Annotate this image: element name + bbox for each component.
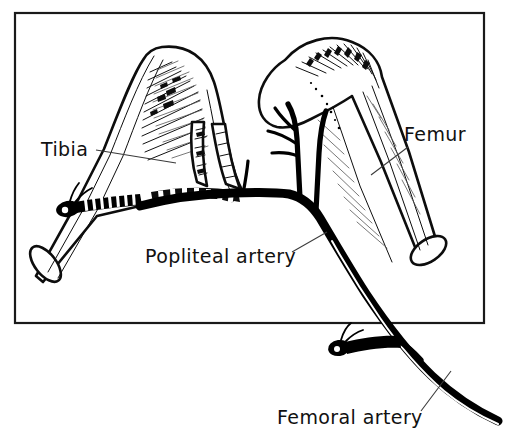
label-tibia: Tibia	[40, 138, 88, 160]
label-femoral-artery: Femoral artery	[277, 406, 423, 428]
illustration-canvas: Tibia Femur Popliteal artery Femoral art…	[0, 0, 524, 438]
label-popliteal-artery: Popliteal artery	[145, 245, 296, 267]
anatomical-figure: Tibia Femur Popliteal artery Femoral art…	[0, 0, 524, 438]
label-femur: Femur	[404, 123, 466, 145]
